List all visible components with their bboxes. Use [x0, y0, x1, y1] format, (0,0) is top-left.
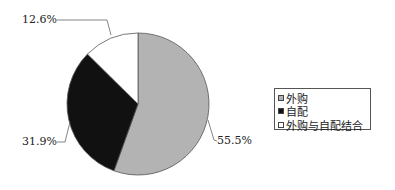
legend-item-combined: 外购与自配结合	[278, 118, 370, 132]
leader-line-55-5	[208, 120, 217, 141]
data-label-31-9: 31.9%	[22, 135, 57, 148]
pie-slices	[67, 33, 209, 175]
leader-line-12-6	[57, 20, 111, 35]
legend-swatch-gray	[278, 95, 284, 101]
data-label-55-5: 55.5%	[217, 134, 252, 147]
chart-legend: 外购 自配 外购与自配结合	[274, 88, 371, 130]
legend-label: 外购与自配结合	[286, 117, 363, 133]
legend-swatch-black	[278, 108, 284, 114]
leader-line-31-9	[57, 122, 70, 142]
data-label-12-6: 12.6%	[22, 13, 57, 26]
legend-swatch-white	[278, 122, 284, 128]
